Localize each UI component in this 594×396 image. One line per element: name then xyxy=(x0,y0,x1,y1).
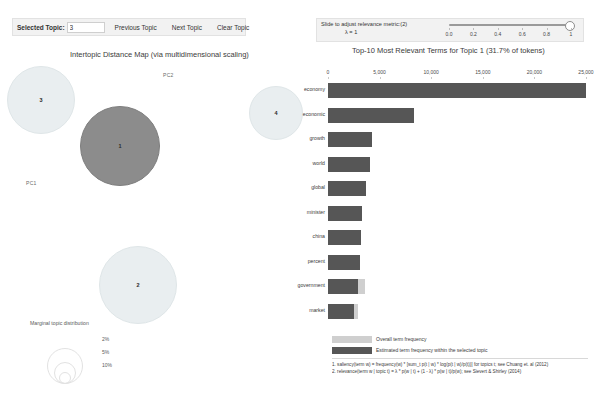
slider-tick xyxy=(547,28,548,30)
bar-chart-legend: Overall term frequency Estimated term fr… xyxy=(332,335,582,357)
bar-row[interactable]: government xyxy=(328,278,586,295)
bar-term-label[interactable]: global xyxy=(311,184,325,190)
slider-tick-label: 0.4 xyxy=(494,31,501,37)
marginal-topic-distribution-legend: Marginal topic distribution 2%5%10% xyxy=(30,320,145,396)
footnote-relevance: 2. relevance(term w | topic t) = λ * p(w… xyxy=(332,368,588,375)
slider-tick-label: 0.6 xyxy=(519,31,526,37)
bar-term-label[interactable]: minister xyxy=(307,209,325,215)
slider-tick-label: 1 xyxy=(570,31,573,37)
slider-tick-label: 0.2 xyxy=(470,31,477,37)
bar-row[interactable]: growth xyxy=(328,131,586,148)
bar-row[interactable]: percent xyxy=(328,254,586,271)
topic-bubble-4[interactable]: 4 xyxy=(249,86,303,140)
bar-plot-area: 05,00010,00015,00020,00025,000 economyec… xyxy=(328,70,586,330)
selected-topic-label: Selected Topic: xyxy=(13,24,65,31)
x-axis-tick xyxy=(586,77,587,79)
relevance-slider-label: Slide to adjust relevance metric:(2) xyxy=(321,21,407,27)
bar-term-label[interactable]: market xyxy=(309,307,325,313)
bar-row[interactable]: market xyxy=(328,303,586,320)
bar-topic-frequency xyxy=(328,83,586,98)
legend-row-overall: Overall term frequency xyxy=(332,335,582,344)
bar-term-label[interactable]: economy xyxy=(304,86,325,92)
x-axis-tick xyxy=(534,77,535,79)
bar-topic-frequency xyxy=(328,255,360,270)
x-axis-tick xyxy=(431,77,432,79)
bar-term-label[interactable]: growth xyxy=(309,135,325,141)
relevance-metric-toolbar: Slide to adjust relevance metric:(2) λ =… xyxy=(316,18,584,42)
x-axis-tick-label: 10,000 xyxy=(424,69,439,75)
slider-tick-label: 0.8 xyxy=(543,31,550,37)
selected-topic-input[interactable] xyxy=(67,22,105,33)
slider-tick xyxy=(498,28,499,30)
bar-term-label[interactable]: percent xyxy=(308,258,325,264)
topic-bubble-label: 2 xyxy=(136,282,139,288)
pc1-axis-label: PC1 xyxy=(26,180,37,186)
top-terms-bar-chart: 05,00010,00015,00020,00025,000 economyec… xyxy=(296,58,594,396)
relevance-slider[interactable]: 0.00.20.40.60.81 xyxy=(447,21,575,39)
bar-term-label[interactable]: economic xyxy=(303,111,325,117)
marginal-reference-label: 2% xyxy=(102,336,109,342)
slider-track[interactable] xyxy=(449,24,571,26)
footnote-saliency: 1. saliency(term w) = frequency(w) * [su… xyxy=(332,361,588,368)
topic-bubble-label: 3 xyxy=(39,97,42,103)
topic-bubble-label: 1 xyxy=(118,143,121,149)
bar-topic-frequency xyxy=(328,157,370,172)
legend-row-topic: Estimated term frequency within the sele… xyxy=(332,346,582,355)
bar-row[interactable]: economic xyxy=(328,107,586,124)
bar-chart-x-axis: 05,00010,00015,00020,00025,000 xyxy=(328,70,586,80)
bar-term-label[interactable]: china xyxy=(313,233,325,239)
marginal-reference-circle xyxy=(47,348,83,384)
slider-tick xyxy=(473,28,474,30)
intertopic-distance-map: PC2 PC1 1234 Marginal topic distribution… xyxy=(0,58,296,396)
bar-topic-frequency xyxy=(328,230,361,245)
previous-topic-button[interactable]: Previous Topic xyxy=(110,23,162,32)
slider-tick-label: 0.0 xyxy=(446,31,453,37)
x-axis-tick-label: 15,000 xyxy=(475,69,490,75)
topic-selection-toolbar: Selected Topic: Previous Topic Next Topi… xyxy=(12,18,246,36)
x-axis-tick xyxy=(380,77,381,79)
marginal-reference-label: 5% xyxy=(102,349,109,355)
bar-row[interactable]: world xyxy=(328,156,586,173)
top-cropped-text: t2 t3 t4 t5 t6 xyxy=(150,0,210,1)
x-axis-tick xyxy=(328,77,329,79)
marginal-reference-label: 10% xyxy=(102,362,112,368)
bar-term-label[interactable]: world xyxy=(313,160,325,166)
bar-row[interactable]: economy xyxy=(328,82,586,99)
x-axis-tick xyxy=(483,77,484,79)
bar-topic-frequency xyxy=(328,206,362,221)
bar-row[interactable]: minister xyxy=(328,205,586,222)
bar-topic-frequency xyxy=(328,181,366,196)
legend-label-topic: Estimated term frequency within the sele… xyxy=(376,347,487,353)
topic-bubble-1[interactable]: 1 xyxy=(80,106,160,186)
top-terms-chart-title: Top-10 Most Relevant Terms for Topic 1 (… xyxy=(352,46,545,55)
top-cropped-text-strip: t2 t3 t4 t5 t6 xyxy=(0,0,594,8)
bar-topic-frequency xyxy=(328,108,414,123)
slider-tick xyxy=(571,28,572,30)
x-axis-tick-label: 0 xyxy=(327,69,330,75)
x-axis-tick-label: 5,000 xyxy=(373,69,386,75)
topic-bubble-2[interactable]: 2 xyxy=(99,246,177,324)
chart-footnotes: 1. saliency(term w) = frequency(w) * [su… xyxy=(332,358,588,375)
slider-tick xyxy=(522,28,523,30)
x-axis-tick-label: 25,000 xyxy=(578,69,593,75)
pc2-axis-label: PC2 xyxy=(163,72,174,78)
bar-term-label[interactable]: government xyxy=(298,282,325,288)
bar-topic-frequency xyxy=(328,279,358,294)
bar-row[interactable]: global xyxy=(328,180,586,197)
legend-swatch-topic-icon xyxy=(332,347,372,354)
marginal-legend-title: Marginal topic distribution xyxy=(30,320,89,326)
bar-topic-frequency xyxy=(328,132,372,147)
bar-topic-frequency xyxy=(328,304,354,319)
topic-bubble-3[interactable]: 3 xyxy=(7,66,75,134)
bar-row[interactable]: china xyxy=(328,229,586,246)
legend-swatch-overall-icon xyxy=(332,336,372,343)
x-axis-tick-label: 20,000 xyxy=(527,69,542,75)
legend-label-overall: Overall term frequency xyxy=(376,336,427,342)
clear-topic-button[interactable]: Clear Topic xyxy=(212,23,254,32)
next-topic-button[interactable]: Next Topic xyxy=(167,23,207,32)
pyldavis-visualization: t2 t3 t4 t5 t6 Selected Topic: Previous … xyxy=(0,0,594,396)
topic-bubble-label: 4 xyxy=(274,110,277,116)
lambda-value-label: λ = 1 xyxy=(345,29,357,35)
slider-tick-marks: 0.00.20.40.60.81 xyxy=(447,28,575,38)
slider-tick xyxy=(449,28,450,30)
